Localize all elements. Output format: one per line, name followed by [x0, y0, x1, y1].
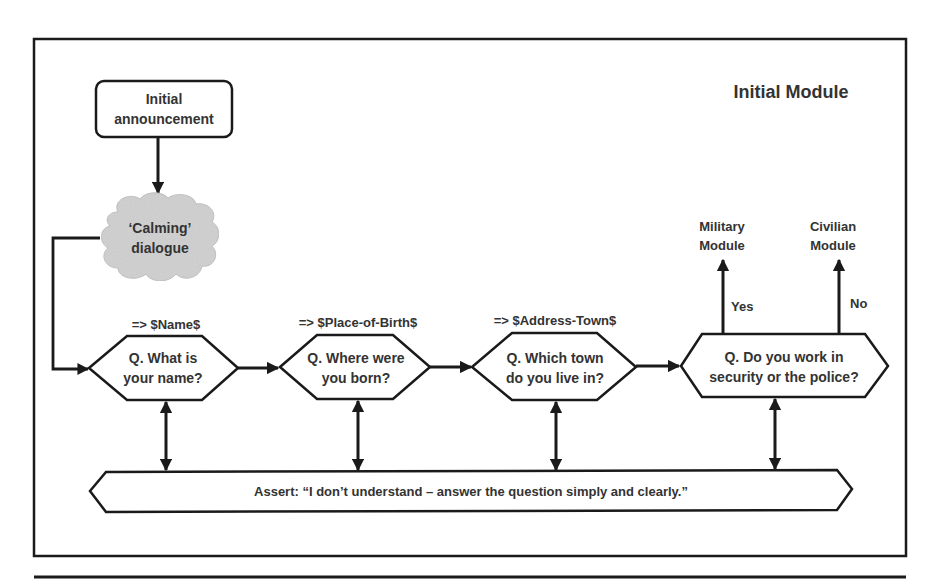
question-security-police: Q. Do you work in security or the police… [681, 334, 888, 397]
q3-line2: do you live in? [506, 370, 604, 386]
no-label: No [850, 296, 867, 311]
module-title: Initial Module [734, 82, 849, 102]
cloud-line1: ‘Calming’ [128, 220, 191, 236]
variable-address-town-label: => $Address-Town$ [494, 313, 617, 328]
variable-place-of-birth-label: => $Place-of-Birth$ [299, 315, 418, 330]
start-box-line2: announcement [114, 111, 214, 127]
connector-cloud-to-q1 [53, 238, 100, 369]
cloud-calming-dialogue: ‘Calming’ dialogue [101, 193, 218, 281]
q3-line1: Q. Which town [506, 350, 603, 366]
start-box-initial-announcement: Initial announcement [96, 81, 232, 137]
variable-name-label: => $Name$ [132, 317, 201, 332]
q2-line1: Q. Where were [307, 350, 404, 366]
assert-banner: Assert: “I don’t understand – answer the… [90, 470, 852, 512]
civilian-module-line2: Module [810, 238, 856, 253]
military-module-line1: Military [699, 219, 745, 234]
military-module-line2: Module [699, 238, 745, 253]
assert-text: Assert: “I don’t understand – answer the… [254, 484, 688, 499]
question-place-of-birth: => $Place-of-Birth$ Q. Where were you bo… [280, 315, 430, 399]
yes-label: Yes [731, 299, 753, 314]
question-address-town: => $Address-Town$ Q. Which town do you l… [472, 313, 636, 400]
flowchart-canvas: Initial Module Initial announcement ‘Cal… [0, 0, 930, 581]
q4-line1: Q. Do you work in [724, 349, 843, 365]
cloud-line2: dialogue [131, 240, 189, 256]
question-name: => $Name$ Q. What is your name? [89, 317, 238, 400]
q4-line2: security or the police? [709, 369, 858, 385]
q2-line2: you born? [322, 370, 390, 386]
q1-line2: your name? [123, 370, 202, 386]
civilian-module-line1: Civilian [810, 219, 856, 234]
start-box-line1: Initial [146, 91, 183, 107]
q1-line1: Q. What is [129, 350, 198, 366]
